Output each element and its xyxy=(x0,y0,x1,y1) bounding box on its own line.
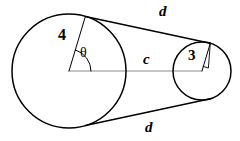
geometry-figure: 4 θ c 3 d d xyxy=(0,0,240,141)
center-distance-label: c xyxy=(143,52,150,67)
pulley-diagram-svg xyxy=(0,0,240,141)
radius-large-label: 4 xyxy=(58,27,66,43)
belt-bottom-label: d xyxy=(145,120,153,135)
radius-small-label: 3 xyxy=(188,48,196,63)
belt-top-label: d xyxy=(159,4,167,19)
theta-angle-label: θ xyxy=(80,46,87,60)
